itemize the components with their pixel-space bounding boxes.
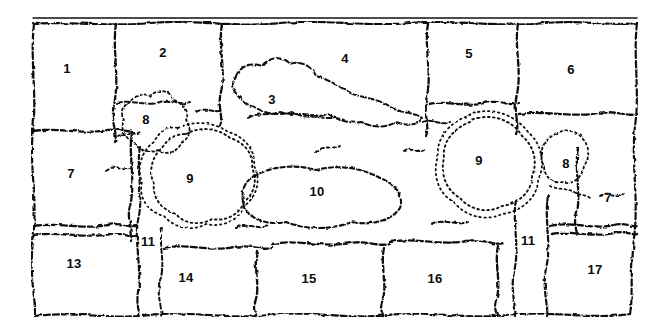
region-8: [118, 91, 189, 153]
region-7: [34, 132, 136, 240]
label-11-right: 11: [521, 234, 535, 247]
region-1: [34, 24, 132, 142]
left-border: [32, 24, 35, 316]
label-4: 4: [341, 52, 348, 65]
label-14: 14: [179, 271, 194, 284]
region-5: [429, 24, 519, 134]
region-3: [232, 58, 422, 126]
diagram-canvas: 1234567891011131415169871117: [0, 0, 662, 334]
right-border: [630, 23, 637, 314]
label-11-left: 11: [141, 235, 155, 248]
label-9-left: 9: [186, 172, 193, 185]
label-17: 17: [588, 263, 603, 276]
region-13: [34, 234, 135, 237]
label-13: 13: [67, 257, 82, 270]
label-8-right: 8: [562, 157, 569, 170]
label-1: 1: [63, 62, 70, 75]
label-7-left: 7: [67, 167, 74, 180]
label-15: 15: [302, 272, 317, 285]
region-11: [137, 146, 162, 316]
region-11: [513, 196, 549, 316]
label-16: 16: [428, 272, 443, 285]
label-10: 10: [310, 185, 325, 198]
region-9: [140, 123, 258, 228]
label-6: 6: [567, 63, 574, 76]
label-3: 3: [268, 93, 275, 106]
label-7-right: 7: [604, 191, 611, 204]
interstitial-walls: [106, 110, 624, 228]
label-8-left: 8: [142, 113, 149, 126]
label-2: 2: [159, 46, 166, 59]
region-4: [426, 24, 429, 136]
wavy-top-border: [33, 22, 637, 25]
wavy-bottom-border: [35, 314, 630, 317]
region-6: [519, 112, 637, 115]
region-17: [552, 232, 637, 235]
region-15: [272, 242, 390, 316]
label-5: 5: [465, 47, 472, 60]
region-9: [436, 111, 542, 217]
label-9-right: 9: [475, 154, 482, 167]
region-16: [390, 240, 504, 316]
